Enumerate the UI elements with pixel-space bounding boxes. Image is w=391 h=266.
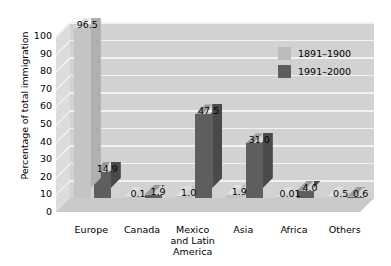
immigration-bar-chart: Percentage of total immigration 10090807…	[0, 0, 391, 266]
y-axis-tick-labels: 1009080706050403020100	[20, 0, 52, 266]
bar-side-face	[212, 104, 222, 188]
left-wall-tick	[56, 110, 70, 126]
y-axis-tick-label: 20	[26, 172, 52, 182]
bar-value-label: 4.0	[293, 183, 327, 193]
bar-front-face	[195, 114, 212, 198]
y-axis-tick-label: 80	[26, 66, 52, 76]
y-axis-tick-label: 100	[26, 31, 52, 41]
y-axis-tick-label: 50	[26, 119, 52, 129]
y-axis-tick-label: 60	[26, 101, 52, 111]
bar	[74, 28, 91, 198]
plot-floor	[56, 198, 374, 212]
left-wall-tick	[56, 92, 70, 108]
bar-value-label: 96.5	[70, 20, 104, 30]
legend-item: 1891–1900	[278, 44, 351, 62]
left-wall-tick	[56, 22, 70, 38]
left-wall-tick	[56, 57, 70, 73]
left-wall-tick	[56, 163, 70, 179]
gridline	[70, 92, 374, 94]
legend-label: 1891–1900	[298, 48, 351, 59]
chart-legend: 1891–1900 1991–2000	[278, 44, 351, 80]
legend-swatch-1891-1900-icon	[278, 47, 291, 60]
y-axis-tick-label: 10	[26, 189, 52, 199]
legend-item: 1991–2000	[278, 62, 351, 80]
y-axis-tick-label: 0	[26, 207, 52, 217]
y-axis-tick-label: 70	[26, 84, 52, 94]
bar-value-label: 0.6	[344, 189, 378, 199]
y-axis-tick-label: 40	[26, 137, 52, 147]
left-wall-tick	[56, 180, 70, 196]
bar-value-label: 31.0	[242, 135, 276, 145]
legend-swatch-1991-2000-icon	[278, 65, 291, 78]
bar-value-label: 1.9	[222, 187, 256, 197]
bar-value-label: 1.9	[141, 187, 175, 197]
bar-value-label: 1.0	[172, 188, 206, 198]
y-axis-tick-label: 30	[26, 154, 52, 164]
left-wall-tick	[56, 128, 70, 144]
gridline	[70, 40, 374, 42]
left-wall-tick	[56, 145, 70, 161]
x-axis-category-label: Others	[314, 224, 376, 235]
bar	[195, 114, 212, 198]
left-wall-tick	[56, 40, 70, 56]
y-axis-tick-label: 90	[26, 49, 52, 59]
legend-label: 1991–2000	[298, 66, 351, 77]
bar-value-label: 47.5	[192, 106, 226, 116]
gridline	[70, 22, 374, 24]
plot-left-wall	[56, 22, 70, 212]
left-wall-tick	[56, 75, 70, 91]
bar-value-label: 14.9	[90, 164, 124, 174]
bar-front-face	[74, 28, 91, 198]
